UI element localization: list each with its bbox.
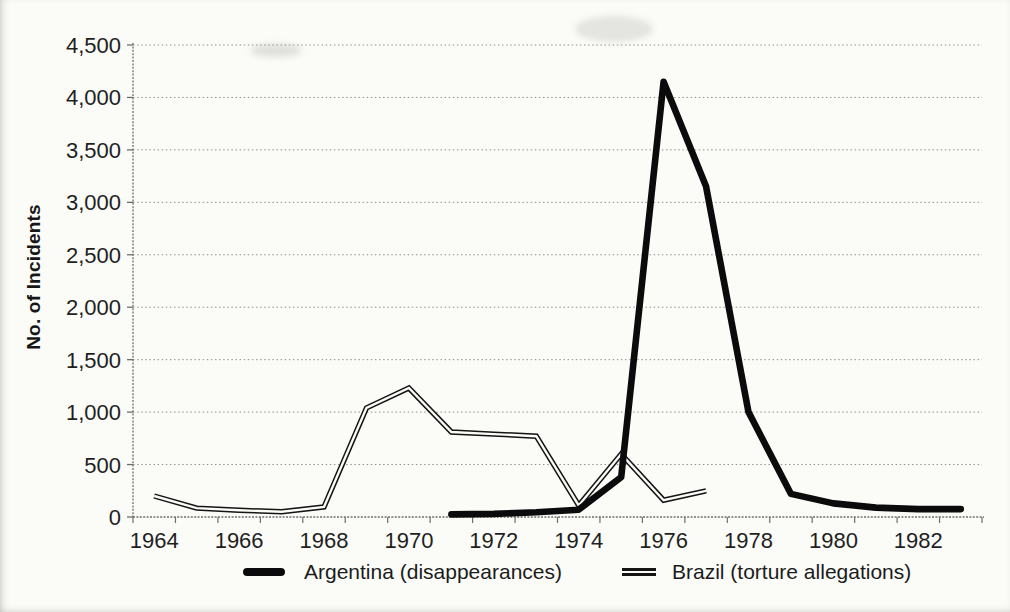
y-tick-label: 4,000 bbox=[66, 85, 121, 110]
legend-label-argentina: Argentina (disappearances) bbox=[304, 560, 562, 584]
y-tick-label: 1,000 bbox=[66, 400, 121, 425]
x-tick-label: 1976 bbox=[639, 528, 688, 553]
x-tick-label: 1972 bbox=[469, 528, 518, 553]
x-tick-label: 1970 bbox=[384, 528, 433, 553]
y-axis-ticks-and-labels: 05001,0001,5002,0002,5003,0003,5004,0004… bbox=[66, 33, 133, 530]
y-tick-label: 2,500 bbox=[66, 243, 121, 268]
series-argentina-line bbox=[451, 82, 960, 515]
y-tick-label: 2,000 bbox=[66, 295, 121, 320]
y-tick-label: 500 bbox=[84, 453, 121, 478]
y-tick-label: 0 bbox=[109, 505, 121, 530]
legend-item-brazil: Brazil (torture allegations) bbox=[622, 560, 911, 584]
axes bbox=[133, 43, 984, 517]
gridlines bbox=[133, 45, 982, 465]
x-tick-label: 1974 bbox=[554, 528, 603, 553]
y-tick-label: 3,000 bbox=[66, 190, 121, 215]
argentina-line-swatch-icon bbox=[243, 568, 285, 576]
x-tick-label: 1980 bbox=[809, 528, 858, 553]
x-tick-label: 1982 bbox=[894, 528, 943, 553]
y-tick-label: 1,500 bbox=[66, 348, 121, 373]
x-axis-labels: 1964196619681970197219741976197819801982 bbox=[130, 528, 943, 553]
x-tick-label: 1964 bbox=[130, 528, 179, 553]
incidents-line-chart: 05001,0001,5002,0002,5003,0003,5004,0004… bbox=[0, 0, 1010, 612]
legend: Argentina (disappearances) Brazil (tortu… bbox=[243, 560, 911, 584]
x-tick-label: 1968 bbox=[300, 528, 349, 553]
y-tick-label: 3,500 bbox=[66, 138, 121, 163]
legend-item-argentina: Argentina (disappearances) bbox=[243, 560, 562, 584]
scanned-chart-page: No. of Incidents 05001,0001,5002,0002,50… bbox=[0, 0, 1010, 612]
x-tick-label: 1966 bbox=[215, 528, 264, 553]
x-tick-label: 1978 bbox=[724, 528, 773, 553]
legend-label-brazil: Brazil (torture allegations) bbox=[672, 560, 911, 584]
brazil-line-swatch-icon bbox=[622, 568, 656, 576]
y-tick-label: 4,500 bbox=[66, 33, 121, 58]
x-axis-ticks bbox=[133, 517, 982, 523]
